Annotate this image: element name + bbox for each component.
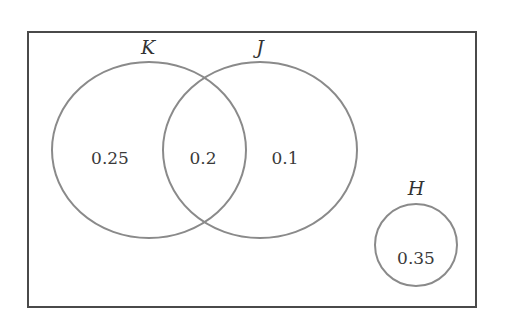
set-h-label: H xyxy=(407,177,425,199)
set-k-label: K xyxy=(140,36,157,58)
region-k-only-value: 0.25 xyxy=(91,148,129,168)
region-h-only-value: 0.35 xyxy=(397,248,435,268)
venn-diagram: K J H 0.25 0.2 0.1 0.35 xyxy=(0,0,506,317)
region-j-only-value: 0.1 xyxy=(271,148,298,168)
region-k-and-j-value: 0.2 xyxy=(189,148,216,168)
